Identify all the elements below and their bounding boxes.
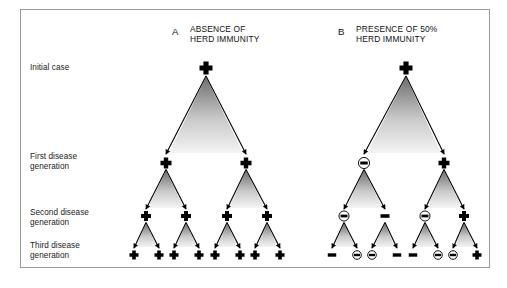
case-symbol-plus: [195, 251, 204, 260]
panel-a-letter: A: [172, 26, 178, 37]
case-symbol-plus: [155, 251, 164, 260]
herd-immunity-diagram: Initial caseFirst disease generationSeco…: [0, 0, 507, 288]
row-label-second-generation: Second disease generation: [30, 208, 89, 228]
case-symbol-plus: [459, 211, 469, 221]
case-symbol-plus: [181, 211, 191, 221]
case-symbol-plus: [236, 251, 245, 260]
panel-b-title: PRESENCE OF 50% HERD IMMUNITY: [356, 24, 437, 45]
figure-border: [20, 9, 490, 268]
case-symbol-plus: [400, 62, 413, 75]
case-symbol-plus: [251, 251, 260, 260]
case-symbol-plus: [241, 158, 252, 169]
case-symbol-plus: [222, 211, 232, 221]
case-symbol-plus: [262, 211, 272, 221]
case-symbol-plus: [130, 251, 139, 260]
panel-a-title: ABSENCE OF HERD IMMUNITY: [190, 24, 259, 45]
case-symbol-circled-minus: [338, 210, 350, 222]
case-symbol-plus: [276, 251, 285, 260]
row-label-initial-case: Initial case: [30, 63, 69, 73]
case-symbol-circled-minus: [358, 157, 371, 170]
case-symbol-plus: [141, 211, 151, 221]
case-symbol-plus: [439, 158, 450, 169]
case-symbol-minus: [328, 253, 337, 256]
case-symbol-circled-minus: [367, 250, 377, 260]
case-symbol-circled-minus: [419, 210, 431, 222]
panel-b-letter: B: [338, 26, 344, 37]
row-label-third-generation: Third disease generation: [30, 241, 80, 261]
case-symbol-plus: [211, 251, 220, 260]
case-symbol-circled-minus: [433, 250, 443, 260]
row-label-first-generation: First disease generation: [30, 152, 77, 172]
case-symbol-circled-minus: [448, 250, 458, 260]
case-symbol-minus: [381, 214, 390, 218]
case-symbol-plus: [200, 62, 213, 75]
case-symbol-minus: [409, 253, 418, 256]
case-symbol-minus: [393, 253, 402, 256]
case-symbol-plus: [161, 158, 172, 169]
case-symbol-plus: [170, 251, 179, 260]
case-symbol-circled-minus: [352, 250, 362, 260]
case-symbol-plus: [473, 251, 482, 260]
